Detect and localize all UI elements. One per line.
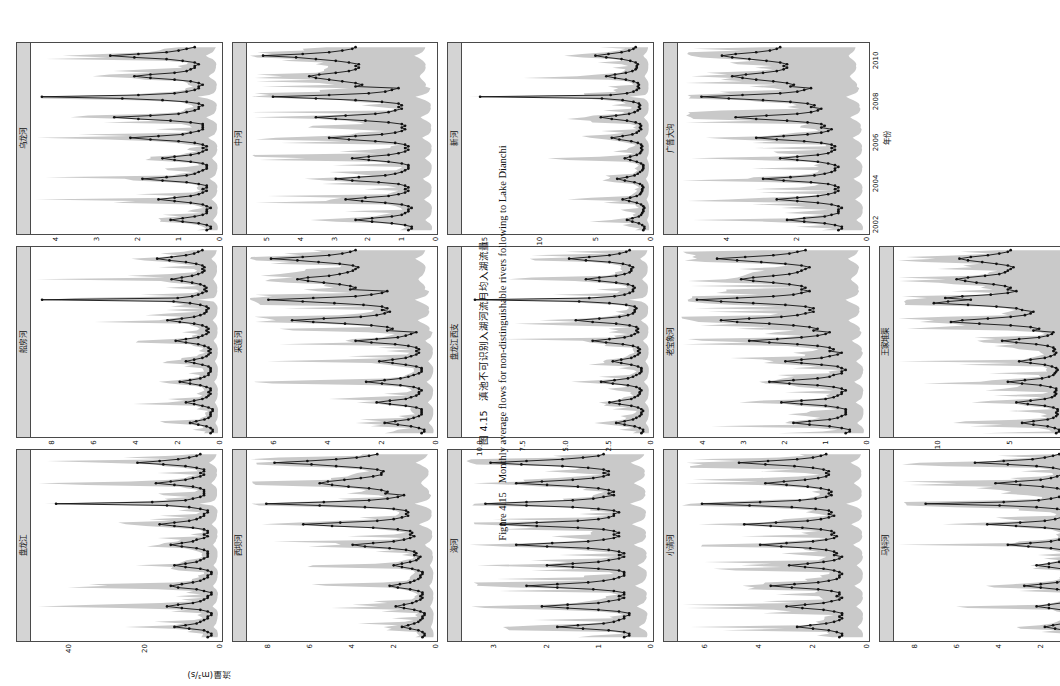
y-tick-label: 5 <box>1006 440 1014 444</box>
y-tick-label: 0 <box>647 237 655 241</box>
panel-plot-area <box>461 246 654 439</box>
chart-panel: 老宝象河01234 <box>663 246 870 439</box>
panel-title: 王家堆渠 <box>882 328 890 357</box>
y-axis-ticks: 024 <box>676 235 870 257</box>
y-axis-title: 流量(m³/s) <box>187 670 231 682</box>
panel-title-strip: 新河 <box>447 42 461 235</box>
panel-title: 广普大沟 <box>667 124 675 153</box>
x-axis-ticks: 20022004200620082010年份 <box>870 42 892 235</box>
y-tick-label: 0 <box>863 440 871 444</box>
panel-title: 马料河 <box>882 535 890 557</box>
y-tick-label: 2 <box>809 644 817 648</box>
x-tick-label: 2004 <box>872 175 880 193</box>
y-tick-label: 2 <box>793 237 801 241</box>
panel-plot-area <box>677 449 870 642</box>
x-tick-label: 2002 <box>872 216 880 234</box>
panel-title: 盘龙江 <box>20 535 28 557</box>
y-tick-label: 6 <box>90 440 98 444</box>
x-tick-label: 2010 <box>872 52 880 70</box>
chart-panel: 小清河0246 <box>663 449 870 642</box>
y-tick-label: 0 <box>863 644 871 648</box>
y-tick-label: 4 <box>755 644 763 648</box>
uncertainty-band <box>682 47 866 230</box>
panel-title-strip: 船房河 <box>16 246 30 439</box>
y-tick-label: 6 <box>306 644 314 648</box>
panel-plot-area <box>461 42 654 235</box>
uncertainty-band <box>898 250 1060 433</box>
y-tick-label: 2 <box>390 644 398 648</box>
y-tick-label: 40 <box>65 644 73 653</box>
caption-chinese-text: 滇池不可识别入湖河流月均入湖流量 <box>478 241 489 401</box>
y-tick-label: 2 <box>364 237 372 241</box>
y-tick-label: 3 <box>93 237 101 241</box>
y-tick-label: 2 <box>134 237 142 241</box>
y-tick-label: 2 <box>543 644 551 648</box>
x-axis-label: 年份 <box>881 131 892 145</box>
chart-panel: 盘龙江02040 <box>16 449 223 642</box>
panel-title-strip: 西坝河 <box>232 449 246 642</box>
panel-title: 采莲河 <box>235 331 243 353</box>
chart-panel: 船房河02468 <box>16 246 223 439</box>
y-tick-label: 8 <box>264 644 272 648</box>
y-tick-label: 4 <box>699 440 707 444</box>
panel-title: 新河 <box>451 131 459 145</box>
y-tick-label: 5 <box>592 237 600 241</box>
caption-english-text: Monthly average flows for non-distinguis… <box>497 145 508 483</box>
y-axis-ticks: 01234 <box>29 235 223 257</box>
chart-panel: 乌龙河01234 <box>16 42 223 235</box>
panel-title-strip: 盘龙江西支 <box>447 246 461 439</box>
y-axis-ticks: 02040 <box>29 642 223 664</box>
chart-panel: 中河012345 <box>232 42 439 235</box>
x-tick-label: 2008 <box>872 93 880 111</box>
panel-title-strip: 采莲河 <box>232 246 246 439</box>
uncertainty-band <box>681 250 865 433</box>
y-axis-ticks: 02468 <box>892 642 1060 664</box>
y-tick-label: 5.0 <box>562 440 570 451</box>
y-tick-label: 20 <box>141 644 149 653</box>
y-tick-label: 0 <box>647 644 655 648</box>
y-tick-label: 0 <box>216 440 224 444</box>
y-tick-label: 3 <box>740 440 748 444</box>
uncertainty-band <box>467 454 650 637</box>
y-tick-label: 0 <box>216 644 224 648</box>
y-tick-label: 1 <box>595 644 603 648</box>
uncertainty-band <box>898 454 1060 637</box>
panel-title: 西坝河 <box>235 535 243 557</box>
panel-plot-area <box>893 449 1060 642</box>
y-tick-label: 2.5 <box>605 440 613 451</box>
uncertainty-band <box>36 250 219 433</box>
y-axis-ticks: 0246 <box>245 438 439 460</box>
y-tick-label: 4 <box>52 237 60 241</box>
panel-plot-area <box>461 449 654 642</box>
y-tick-label: 6 <box>701 644 709 648</box>
panel-plot-area <box>30 449 223 642</box>
uncertainty-band <box>468 47 650 230</box>
chart-panel: 广普大沟02420022004200620082010年份 <box>663 42 870 235</box>
y-tick-label: 8 <box>911 644 919 648</box>
y-tick-label: 2 <box>378 440 386 444</box>
y-tick-label: 0 <box>432 237 440 241</box>
y-tick-label: 10 <box>536 237 544 246</box>
uncertainty-band <box>250 454 435 637</box>
panel-title-strip: 老宝象河 <box>663 246 677 439</box>
y-axis-ticks: 0246 <box>676 642 870 664</box>
uncertainty-band <box>38 454 219 637</box>
panel-plot-area <box>677 42 870 235</box>
y-tick-label: 2 <box>174 440 182 444</box>
caption-chinese: 图 4.15滇池不可识别入湖河流月均入湖流量 <box>476 0 490 686</box>
chart-panel: 采莲河0246 <box>232 246 439 439</box>
y-tick-label: 4 <box>723 237 731 241</box>
y-tick-label: 0 <box>432 644 440 648</box>
y-tick-label: 4 <box>348 644 356 648</box>
panel-title-strip: 盘龙江 <box>16 449 30 642</box>
y-tick-label: 2 <box>1037 644 1045 648</box>
caption-chinese-number: 图 4.15 <box>478 410 489 444</box>
panel-plot-area <box>893 246 1060 439</box>
y-tick-label: 4 <box>995 644 1003 648</box>
panel-title-strip: 广普大沟 <box>663 42 677 235</box>
y-tick-label: 1 <box>175 237 183 241</box>
y-tick-label: 0 <box>863 237 871 241</box>
y-tick-label: 5 <box>263 237 271 241</box>
panel-plot-area <box>677 246 870 439</box>
